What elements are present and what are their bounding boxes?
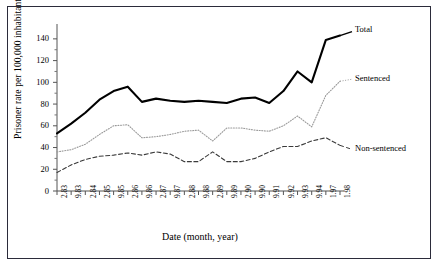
x-tick-label: 9.93	[301, 185, 310, 198]
x-tick-label: 9.91	[272, 185, 281, 198]
x-tick-label: 2.85	[103, 185, 112, 198]
x-tick-label: 9.87	[173, 185, 182, 198]
leader-sentenced	[340, 79, 352, 81]
y-tick-label: 100	[27, 77, 49, 87]
x-tick-label: 1.98	[343, 185, 352, 198]
x-tick-label: 2.84	[89, 185, 98, 198]
x-tick-label: 9.92	[287, 185, 296, 198]
y-tick-label: 140	[27, 33, 49, 43]
leader-total	[340, 32, 352, 36]
x-tick-label: 9.90	[258, 185, 267, 198]
leader-non-sentenced	[340, 145, 352, 149]
y-tick-label: 20	[27, 164, 49, 174]
x-tick-label: 2.90	[244, 185, 253, 198]
x-tick-label: 9.94	[315, 185, 324, 198]
x-tick-label: 2.89	[216, 185, 225, 198]
x-tick-label: 1.97	[329, 185, 338, 198]
series-line-total	[57, 36, 340, 134]
x-tick-label: 9.83	[74, 185, 83, 198]
y-tick-label: 80	[27, 99, 49, 109]
series-line-non-sentenced	[57, 138, 340, 173]
x-tick-label: 9.86	[145, 185, 154, 198]
series-label-total: Total	[355, 24, 372, 34]
y-tick-label: 40	[27, 142, 49, 152]
series-label-sentenced: Sentenced	[355, 73, 390, 83]
y-tick-label: 60	[27, 120, 49, 130]
x-tick-label: 9.85	[117, 185, 126, 198]
x-tick-label: 9.88	[202, 185, 211, 198]
series-label-non-sentenced: Non-sentenced	[355, 143, 406, 153]
x-tick-label: 2.83	[60, 185, 69, 198]
y-tick-label: 0	[27, 186, 49, 196]
series-line-sentenced	[57, 81, 340, 152]
x-tick-label: 2.87	[159, 185, 168, 198]
y-tick-label: 120	[27, 55, 49, 65]
chart-container: Prisoner rate per 100,000 inhabitants Da…	[0, 0, 441, 271]
x-tick-label: 9.89	[230, 185, 239, 198]
x-tick-label: 2.88	[188, 185, 197, 198]
x-tick-label: 2.86	[131, 185, 140, 198]
plot-svg	[0, 0, 441, 271]
